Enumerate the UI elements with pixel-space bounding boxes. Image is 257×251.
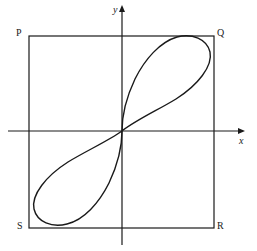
vertex-label-q: Q <box>217 28 224 38</box>
vertex-label-p: P <box>16 28 22 38</box>
y-axis-label: y <box>113 5 117 15</box>
vertex-label-s: S <box>17 221 23 231</box>
math-figure: P Q R S x y <box>0 0 257 251</box>
x-axis-label: x <box>239 136 243 146</box>
vertex-label-r: R <box>217 221 224 231</box>
